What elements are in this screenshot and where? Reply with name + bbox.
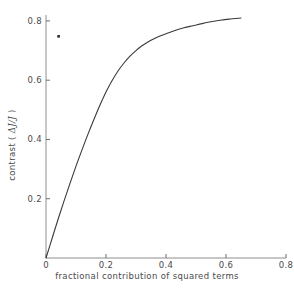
x-axis-title: fractional contribution of squared terms (55, 271, 239, 281)
x-tick-label: 0.2 (99, 260, 113, 270)
y-tick-label: 0.8 (14, 16, 42, 26)
plot-area (0, 0, 294, 291)
scatter-point (57, 35, 60, 38)
y-tick-label: 0.2 (14, 194, 42, 204)
y-axis-ticks (46, 21, 50, 199)
chart-figure: 00.20.40.60.8 0.20.40.60.8 fractional co… (0, 0, 294, 291)
x-tick-label: 0.4 (159, 260, 173, 270)
y-axis-title: contrast ( ΔJ/J ) (7, 109, 17, 181)
x-tick-label: 0.8 (279, 260, 293, 270)
scatter-point-series (57, 35, 60, 38)
y-tick-label: 0.6 (14, 75, 42, 85)
x-tick-label: 0 (43, 260, 49, 270)
y-tick-label: 0.4 (14, 134, 42, 144)
axis-lines (46, 15, 286, 258)
y-axis-title-symbol: ΔJ/J (7, 116, 17, 133)
data-line-series (46, 18, 241, 258)
x-axis-ticks (46, 254, 286, 258)
y-axis-title-prefix: contrast ( (7, 133, 17, 181)
x-tick-label: 0.6 (219, 260, 233, 270)
y-axis-title-suffix: ) (7, 109, 17, 116)
